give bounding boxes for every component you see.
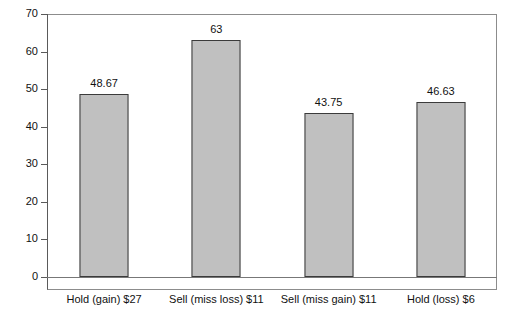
y-tick-mark bbox=[41, 239, 47, 240]
x-category-label: Hold (loss) $6 bbox=[407, 292, 475, 306]
y-tick: 0 bbox=[0, 277, 47, 278]
bar-value-label: 46.63 bbox=[427, 85, 455, 98]
y-tick-mark bbox=[41, 89, 47, 90]
y-tick-mark bbox=[41, 52, 47, 53]
y-tick-label: 40 bbox=[26, 120, 38, 133]
y-tick-label: 20 bbox=[26, 195, 38, 208]
y-tick-label: 50 bbox=[26, 82, 38, 95]
y-tick: 10 bbox=[0, 239, 47, 240]
y-tick-mark bbox=[41, 202, 47, 203]
bar-slot: 46.63 bbox=[385, 14, 497, 277]
y-tick: 20 bbox=[0, 202, 47, 203]
bar[interactable] bbox=[416, 102, 465, 277]
y-tick-label: 60 bbox=[26, 45, 38, 58]
y-tick-mark bbox=[41, 164, 47, 165]
bar-slot: 43.75 bbox=[273, 14, 385, 277]
x-axis-baseline bbox=[47, 277, 497, 278]
bar-slot: 48.67 bbox=[48, 14, 160, 277]
y-tick: 60 bbox=[0, 52, 47, 53]
x-category-label: Sell (miss gain) $11 bbox=[281, 292, 377, 306]
y-tick: 40 bbox=[0, 127, 47, 128]
x-category-label: Sell (miss loss) $11 bbox=[169, 292, 264, 306]
y-tick-mark bbox=[41, 14, 47, 15]
bars-layer: 48.676343.7546.63 bbox=[48, 14, 497, 277]
bar-slot: 63 bbox=[160, 14, 272, 277]
x-category-label: Hold (gain) $27 bbox=[67, 292, 142, 306]
bar-value-label: 48.67 bbox=[90, 77, 118, 90]
y-tick-label: 30 bbox=[26, 157, 38, 170]
bar-chart: 010203040506070 48.676343.7546.63 Hold (… bbox=[0, 0, 507, 317]
y-tick-label: 70 bbox=[26, 7, 38, 20]
y-tick-label: 0 bbox=[32, 270, 38, 283]
bar[interactable] bbox=[304, 113, 353, 277]
bar-value-label: 43.75 bbox=[315, 96, 343, 109]
bar[interactable] bbox=[80, 94, 129, 277]
y-tick-label: 10 bbox=[26, 232, 38, 245]
y-tick: 70 bbox=[0, 14, 47, 15]
y-tick: 30 bbox=[0, 164, 47, 165]
bar[interactable] bbox=[192, 40, 241, 277]
bar-value-label: 63 bbox=[210, 23, 222, 36]
y-tick-mark bbox=[41, 127, 47, 128]
y-tick: 50 bbox=[0, 89, 47, 90]
